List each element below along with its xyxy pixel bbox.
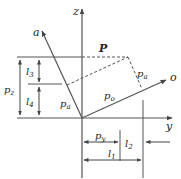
y-axis-label: y <box>165 120 173 133</box>
force-decomposition-diagram: z y a o P pa pa po pz py l3 l4 l2 l1 <box>0 0 181 179</box>
pz-label: pz <box>4 84 14 97</box>
z-axis-label: z <box>72 5 79 18</box>
pa-label-right: pa <box>137 68 148 81</box>
o-axis-label: o <box>170 71 177 84</box>
pa-label-left: pa <box>60 98 71 111</box>
l1-label: l1 <box>108 148 116 161</box>
o-axis <box>82 80 166 118</box>
py-label: py <box>95 130 106 143</box>
vector-p-label: P <box>98 42 108 55</box>
a-axis-label: a <box>33 26 40 39</box>
l2-label: l2 <box>125 138 133 151</box>
l3-label: l3 <box>26 66 34 79</box>
l4-label: l4 <box>26 96 34 109</box>
dashed-parallel-o <box>67 57 128 85</box>
po-label: po <box>104 90 115 103</box>
